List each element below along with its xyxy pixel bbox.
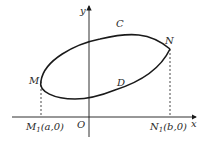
closed-curve-diagram: y x O C N M D M1(a,0) N1(b,0)	[0, 0, 207, 152]
origin-label: O	[77, 119, 85, 130]
y-axis-label: y	[79, 5, 86, 16]
point-n-label: N	[164, 35, 175, 46]
curve-lower-ndm	[41, 49, 170, 99]
point-m-label: M	[28, 75, 40, 86]
curve-upper-mcn	[41, 35, 170, 81]
n1-label: N1(b,0)	[149, 121, 187, 134]
point-c-label: C	[116, 18, 124, 29]
x-axis-label: x	[191, 118, 197, 129]
point-d-label: D	[116, 77, 125, 88]
m1-label: M1(a,0)	[25, 121, 64, 134]
